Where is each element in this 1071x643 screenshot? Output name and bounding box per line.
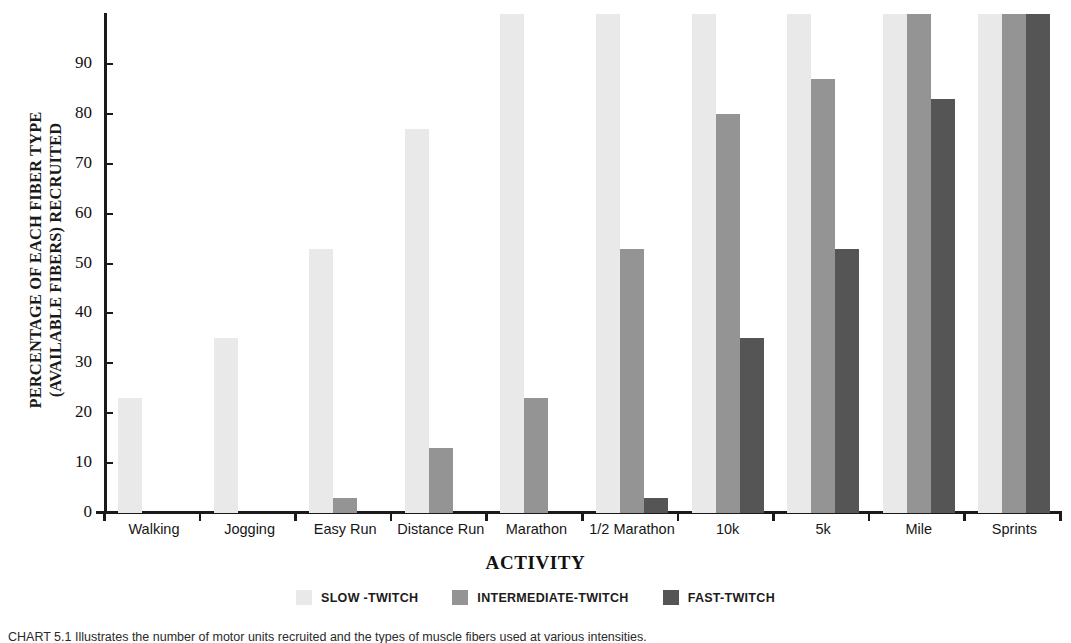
x-axis-tick (581, 513, 584, 521)
y-axis-tick-label: 70 (48, 153, 92, 173)
bar (740, 338, 764, 513)
bar (811, 79, 835, 513)
y-axis-tick-label: 80 (48, 103, 92, 123)
bar-group (869, 14, 965, 513)
y-axis-tick-label: 60 (48, 203, 92, 223)
x-axis-tick (199, 513, 202, 521)
legend-item[interactable]: SLOW -TWITCH (296, 590, 418, 605)
x-axis-tick (963, 513, 966, 521)
legend-item-label: SLOW -TWITCH (321, 591, 418, 605)
chart-legend: SLOW -TWITCHINTERMEDIATE-TWITCHFAST-TWIT… (0, 590, 1071, 605)
y-axis-tick-label: 30 (48, 352, 92, 372)
bar (620, 249, 644, 513)
y-axis-tick-label: 90 (48, 53, 92, 73)
bar (883, 14, 907, 513)
figure-caption: CHART 5.1 Illustrates the number of moto… (8, 630, 1068, 643)
y-axis-tick-label: 20 (48, 402, 92, 422)
bar-group (582, 14, 678, 513)
bar (644, 498, 668, 513)
bar (931, 99, 955, 513)
bar (405, 129, 429, 513)
slow-twitch-swatch (296, 590, 312, 605)
plot-area (104, 14, 1060, 513)
bar-group (295, 14, 391, 513)
bar-group (486, 14, 582, 513)
bar (716, 114, 740, 513)
bar (978, 14, 1002, 513)
bar-group (678, 14, 774, 513)
bar-group (104, 14, 200, 513)
x-axis-category-label: Sprints (944, 521, 1071, 537)
bar-group (200, 14, 296, 513)
legend-item[interactable]: INTERMEDIATE-TWITCH (452, 590, 628, 605)
bar (118, 398, 142, 513)
bar (214, 338, 238, 513)
bar (333, 498, 357, 513)
bar (429, 448, 453, 513)
bar (907, 14, 931, 513)
figure-caption-text: CHART 5.1 Illustrates the number of moto… (8, 630, 647, 643)
bar (309, 249, 333, 513)
bar (692, 14, 716, 513)
y-axis-tick-label: 50 (48, 253, 92, 273)
bar (787, 14, 811, 513)
x-axis-tick (485, 513, 488, 521)
legend-item-label: FAST-TWITCH (688, 591, 775, 605)
bar (596, 14, 620, 513)
y-axis-tick-label: 10 (48, 452, 92, 472)
intermediate-twitch-swatch (452, 590, 468, 605)
bar (1002, 14, 1026, 513)
x-axis-tick (103, 513, 106, 521)
x-axis-title: ACTIVITY (0, 552, 1071, 574)
legend-item-label: INTERMEDIATE-TWITCH (477, 591, 628, 605)
x-axis-tick (294, 513, 297, 521)
fast-twitch-swatch (663, 590, 679, 605)
y-axis-tick-label: 40 (48, 302, 92, 322)
bar (500, 14, 524, 513)
x-axis-tick (868, 513, 871, 521)
bar (524, 398, 548, 513)
x-axis-tick (772, 513, 775, 521)
bar-group (773, 14, 869, 513)
x-axis-tick (1059, 513, 1062, 521)
x-axis-tick (677, 513, 680, 521)
x-axis-tick (390, 513, 393, 521)
bar (1026, 14, 1050, 513)
bar-group (964, 14, 1060, 513)
y-axis-tick-label: 0 (48, 502, 92, 522)
bar (835, 249, 859, 513)
legend-item[interactable]: FAST-TWITCH (663, 590, 775, 605)
bar-group (391, 14, 487, 513)
chart-figure: PERCENTAGE OF EACH FIBER TYPE (AVAILABLE… (0, 0, 1071, 643)
